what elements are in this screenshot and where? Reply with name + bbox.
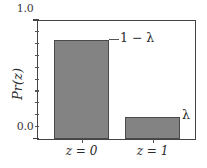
y-tick-minor-1 bbox=[35, 126, 39, 127]
x-tick-1 bbox=[153, 139, 154, 143]
y-tick-minor-4 bbox=[35, 90, 39, 91]
x-tick-0 bbox=[82, 139, 83, 143]
annotation-lambda: λ bbox=[182, 107, 190, 122]
y-tick-minor-9 bbox=[35, 31, 39, 32]
y-tick-label-1: 1.0 bbox=[17, 1, 37, 14]
y-axis-title: Pr(z) bbox=[10, 68, 25, 100]
y-tick-minor-3 bbox=[35, 102, 39, 103]
y-tick-minor-6 bbox=[35, 67, 39, 68]
y-tick-minor-8 bbox=[35, 43, 39, 44]
x-tick-label-1: z = 1 bbox=[137, 144, 169, 158]
y-tick-minor-2 bbox=[35, 114, 39, 115]
plot-area: 0.0 1.0 z = 0 z = 1 1 − λ λ bbox=[37, 20, 196, 140]
y-tick-minor-7 bbox=[35, 55, 39, 56]
y-tick-major-1 bbox=[33, 19, 39, 21]
annotation-leader-1-minus-lambda bbox=[109, 39, 119, 40]
bar-chart-figure: Pr(z) 0.0 1.0 z = 0 z = 1 1 − λ λ bbox=[0, 0, 207, 168]
x-tick-label-0: z = 0 bbox=[66, 144, 98, 158]
y-tick-label-0: 0.0 bbox=[17, 120, 37, 133]
y-tick-minor-5 bbox=[35, 79, 39, 80]
annotation-1-minus-lambda: 1 − λ bbox=[120, 30, 154, 45]
bar-z0[interactable] bbox=[54, 40, 109, 139]
bar-z1[interactable] bbox=[125, 117, 180, 139]
y-tick-major-0 bbox=[33, 138, 39, 140]
